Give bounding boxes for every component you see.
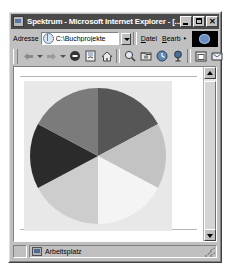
document-page — [14, 67, 203, 241]
scroll-thumb[interactable] — [204, 81, 216, 231]
address-bar-row: Adresse C:\Buchprojekte DDateiatei Bearb… — [11, 29, 219, 47]
toolbar-divider — [133, 32, 137, 45]
back-button[interactable] — [21, 49, 36, 64]
page-rule-top — [20, 76, 197, 77]
status-pane-progress — [13, 245, 27, 258]
pie-chart — [24, 81, 172, 231]
address-value: C:\Buchprojekte — [56, 35, 117, 42]
address-input[interactable]: C:\Buchprojekte — [41, 32, 119, 45]
pie-chart-svg — [24, 81, 172, 231]
vertical-scrollbar[interactable] — [203, 67, 216, 241]
toolbar-grip[interactable] — [13, 49, 18, 64]
mail-button[interactable] — [209, 49, 224, 64]
address-label: Adresse — [13, 35, 39, 42]
status-pane-zone: Arbeitsplatz — [29, 245, 217, 258]
toolbar — [11, 47, 219, 65]
menu-bar: DDateiatei Bearb ‣ — [139, 35, 190, 43]
back-dropdown-icon[interactable] — [37, 49, 43, 64]
globe-icon — [43, 33, 54, 44]
status-bar: Arbeitsplatz — [13, 244, 217, 259]
forward-dropdown-icon[interactable] — [60, 49, 66, 64]
history-button[interactable] — [154, 49, 169, 64]
home-button[interactable] — [99, 49, 114, 64]
refresh-button[interactable] — [83, 49, 98, 64]
title-bar[interactable]: Spektrum - Microsoft Internet Explorer -… — [11, 14, 219, 29]
fullscreen-button[interactable] — [193, 49, 208, 64]
browser-window: Spektrum - Microsoft Internet Explorer -… — [8, 11, 222, 263]
maximize-button[interactable] — [193, 16, 205, 27]
menu-item-bearbeiten[interactable]: Bearb ‣ — [162, 35, 187, 43]
toolbar-separator-1 — [116, 49, 120, 63]
content-area — [13, 66, 217, 242]
search-button[interactable] — [122, 49, 137, 64]
ie-logo — [192, 31, 218, 47]
computer-icon — [32, 247, 42, 256]
minimize-button[interactable] — [180, 16, 192, 27]
menu-item-datei[interactable]: DDateiatei — [141, 35, 157, 42]
window-inner-frame: Spektrum - Microsoft Internet Explorer -… — [9, 12, 221, 262]
scroll-down-button[interactable] — [204, 229, 216, 241]
favorites-button[interactable] — [138, 49, 153, 64]
forward-button[interactable] — [44, 49, 59, 64]
stop-button[interactable] — [67, 49, 82, 64]
close-button[interactable]: ✕ — [206, 16, 218, 27]
scroll-up-button[interactable] — [204, 67, 216, 79]
channels-button[interactable] — [170, 49, 185, 64]
status-text: Arbeitsplatz — [45, 248, 82, 255]
scroll-track[interactable] — [204, 79, 216, 229]
chevron-down-icon[interactable] — [121, 33, 131, 45]
window-controls: ✕ — [180, 16, 218, 27]
ie-document-icon — [13, 16, 24, 27]
window-title: Spektrum - Microsoft Internet Explorer -… — [27, 17, 180, 27]
toolbar-separator-2 — [187, 49, 191, 63]
resize-grip[interactable] — [204, 245, 216, 258]
